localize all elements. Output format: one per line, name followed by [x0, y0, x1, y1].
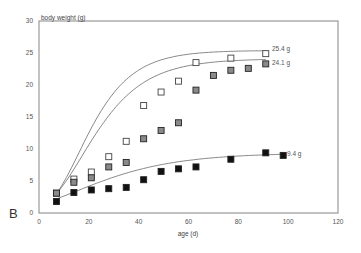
data-point-gray-square	[71, 179, 77, 185]
y-axis-label: body weight (g)	[41, 14, 85, 22]
data-point-filled-square	[123, 184, 129, 190]
data-point-gray-square	[228, 67, 234, 73]
data-point-open-square	[106, 154, 112, 160]
x-tick-label: 40	[135, 218, 143, 225]
data-point-open-square	[158, 89, 164, 95]
x-tick-label: 100	[283, 218, 294, 225]
data-point-filled-square	[193, 164, 199, 170]
y-tick-label: 5	[29, 177, 33, 184]
x-axis-label: age (d)	[178, 230, 199, 238]
data-point-open-square	[141, 102, 147, 108]
data-point-filled-square	[176, 166, 182, 172]
plot-frame	[39, 21, 338, 213]
data-point-gray-square	[210, 72, 216, 78]
y-axis-ticks: 051015202530	[26, 17, 34, 216]
data-point-gray-square	[245, 65, 251, 71]
data-point-open-square	[263, 51, 269, 57]
data-point-open-square	[176, 78, 182, 84]
y-tick-label: 0	[29, 209, 33, 216]
y-tick-label: 25	[26, 49, 34, 56]
data-point-filled-square	[263, 150, 269, 156]
data-point-gray-square	[158, 127, 164, 133]
data-point-filled-square	[88, 187, 94, 193]
growth-chart: 051015202530 020406080100120 25.4 g24.1 …	[0, 0, 361, 253]
data-point-open-square	[123, 138, 129, 144]
y-tick-label: 15	[26, 113, 34, 120]
x-tick-label: 0	[37, 218, 41, 225]
data-point-gray-square	[88, 175, 94, 181]
x-tick-label: 120	[333, 218, 344, 225]
end-label: 24.1 g	[272, 59, 290, 67]
x-tick-label: 20	[85, 218, 93, 225]
data-point-filled-square	[53, 198, 59, 204]
data-point-gray-square	[263, 61, 269, 67]
panel-label: B	[9, 206, 18, 221]
data-point-open-square	[193, 60, 199, 66]
data-point-gray-square	[53, 190, 59, 196]
data-point-open-square	[228, 55, 234, 61]
y-tick-label: 10	[26, 145, 34, 152]
data-point-filled-square	[228, 156, 234, 162]
data-point-gray-square	[106, 164, 112, 170]
y-tick-label: 20	[26, 81, 34, 88]
x-axis-ticks: 020406080100120	[37, 218, 344, 225]
data-point-filled-square	[280, 152, 286, 158]
end-label: 9.4 g	[287, 150, 302, 158]
x-tick-label: 80	[235, 218, 243, 225]
data-point-gray-square	[123, 159, 129, 165]
data-point-gray-square	[176, 120, 182, 126]
data-point-filled-square	[158, 168, 164, 174]
data-point-gray-square	[141, 136, 147, 142]
data-point-filled-square	[141, 177, 147, 183]
end-label: 25.4 g	[272, 45, 290, 53]
data-point-open-square	[88, 169, 94, 175]
data-point-gray-square	[193, 87, 199, 93]
x-tick-label: 60	[185, 218, 193, 225]
curve-end-labels: 25.4 g24.1 g9.4 g	[272, 45, 302, 158]
data-points	[53, 51, 286, 205]
y-tick-label: 30	[26, 17, 34, 24]
data-point-filled-square	[106, 186, 112, 192]
data-point-filled-square	[71, 190, 77, 196]
